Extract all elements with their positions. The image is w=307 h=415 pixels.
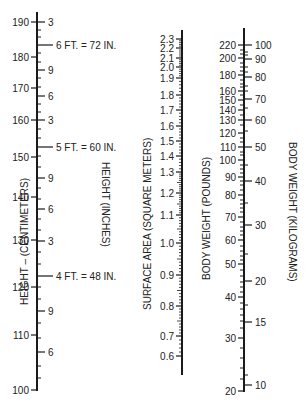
height-in-tick-label: 9 xyxy=(48,306,54,317)
surface-area-tick-label: 1.6 xyxy=(160,121,174,132)
weight-kg-tick-label: 30 xyxy=(255,220,267,231)
height-cm-tick-label: 190 xyxy=(12,17,29,28)
weight-lb-tick-label: 100 xyxy=(219,155,236,166)
surface-area-tick-label: 1.7 xyxy=(160,105,174,116)
height-in-tick-label: 4 FT. = 48 IN. xyxy=(56,271,116,282)
height-in-axis-label: HEIGHT (INCHES) xyxy=(100,162,111,247)
weight-lb-tick-label: 120 xyxy=(219,128,236,139)
height-in-tick-label: 6 xyxy=(48,204,54,215)
surface-area-tick-label: 1.4 xyxy=(160,151,174,162)
weight-lb-tick-label: 130 xyxy=(219,115,236,126)
surface-area-tick-label: 0.6 xyxy=(160,351,174,362)
height-in-tick-label: 5 FT. = 60 IN. xyxy=(56,142,116,153)
weight-lb-tick-label: 20 xyxy=(225,386,237,397)
height-in-tick-label: 3 xyxy=(48,115,54,126)
weight-kg-tick-label: 40 xyxy=(255,176,267,187)
weight-kg-axis-label: BODY WEIGHT (KILOGRAMS) xyxy=(287,142,298,282)
surface-area-tick-label: 1.5 xyxy=(160,136,174,147)
weight-lb-axis-label: BODY WEIGHT (POUNDS) xyxy=(201,157,212,280)
nomogram-svg: 19018017016015014013012011010036 FT. = 7… xyxy=(0,0,307,415)
height-in-tick-label: 6 xyxy=(48,347,54,358)
height-in-tick-label: 9 xyxy=(48,173,54,184)
weight-kg-tick-label: 100 xyxy=(255,40,272,51)
surface-area-axis-label: SURFACE AREA (SQUARE METERS) xyxy=(142,138,153,310)
weight-lb-tick-label: 110 xyxy=(220,142,236,153)
surface-area-tick-label: 0.9 xyxy=(160,270,174,281)
height-cm-tick-label: 170 xyxy=(12,83,29,94)
height-in-tick-label: 9 xyxy=(48,65,54,76)
nomogram-chart: 19018017016015014013012011010036 FT. = 7… xyxy=(0,0,307,415)
weight-kg-tick-label: 15 xyxy=(255,317,267,328)
weight-kg-tick-label: 70 xyxy=(255,94,267,105)
weight-lb-tick-label: 40 xyxy=(225,292,237,303)
height-cm-axis-label: HEIGHT – (CENTIMETERS) xyxy=(19,178,30,305)
height-cm-tick-label: 110 xyxy=(13,330,29,341)
weight-lb-tick-label: 80 xyxy=(225,190,237,201)
surface-area-tick-label: 1.0 xyxy=(160,238,174,249)
weight-lb-tick-label: 70 xyxy=(225,212,237,223)
weight-kg-tick-label: 60 xyxy=(255,115,267,126)
surface-area-tick-label: 0.8 xyxy=(160,301,174,312)
surface-area-tick-label: 0.7 xyxy=(160,331,174,342)
weight-kg-tick-label: 50 xyxy=(255,142,267,153)
height-cm-tick-label: 180 xyxy=(12,52,29,63)
surface-area-tick-label: 1.9 xyxy=(160,73,174,84)
weight-lb-tick-label: 220 xyxy=(219,40,236,51)
weight-lb-tick-label: 30 xyxy=(225,333,237,344)
weight-kg-tick-label: 80 xyxy=(255,72,267,83)
weight-lb-tick-label: 180 xyxy=(219,70,236,81)
height-cm-tick-label: 160 xyxy=(12,115,29,126)
weight-kg-tick-label: 90 xyxy=(255,54,267,65)
height-cm-tick-label: 100 xyxy=(12,385,29,396)
weight-lb-tick-label: 90 xyxy=(225,172,237,183)
height-in-tick-label: 3 xyxy=(48,17,54,28)
weight-lb-tick-label: 60 xyxy=(225,235,237,246)
weight-lb-tick-label: 50 xyxy=(225,259,237,270)
weight-lb-tick-label: 200 xyxy=(219,53,236,64)
weight-kg-tick-label: 20 xyxy=(255,276,267,287)
surface-area-tick-label: 1.3 xyxy=(160,167,174,178)
height-in-tick-label: 3 xyxy=(48,236,54,247)
surface-area-tick-label: 1.1 xyxy=(160,210,174,221)
height-in-tick-label: 6 xyxy=(48,91,54,102)
height-in-tick-label: 6 FT. = 72 IN. xyxy=(56,40,116,51)
surface-area-tick-label: 1.2 xyxy=(160,188,174,199)
surface-area-tick-label: 1.8 xyxy=(160,90,174,101)
surface-area-tick-label: 2.0 xyxy=(160,62,174,73)
weight-kg-tick-label: 10 xyxy=(255,380,267,391)
height-cm-tick-label: 150 xyxy=(12,152,29,163)
